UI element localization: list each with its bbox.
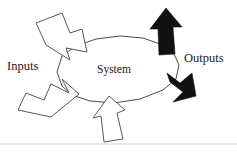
inputs-label: Inputs [7,60,38,73]
input-arrow-bottom-center-icon [93,96,125,142]
system-label: System [97,64,131,76]
output-arrow-bottom-right-icon [167,73,196,102]
diagram-canvas [0,0,237,155]
system-diagram: Inputs System Outputs [0,0,237,155]
outputs-label: Outputs [184,52,224,65]
